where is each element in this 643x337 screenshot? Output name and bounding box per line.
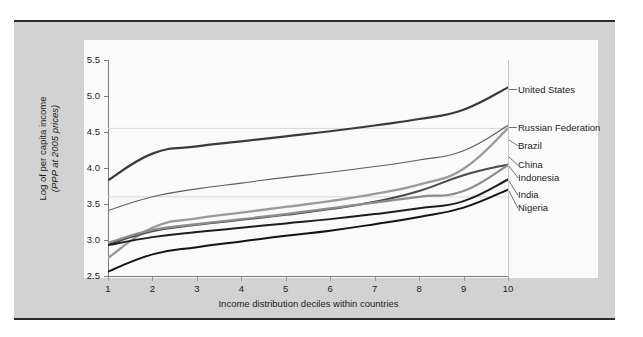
figure-root: 2.53.03.54.04.55.05.5 Log of per capita …	[0, 0, 643, 337]
legend-leader-line	[509, 139, 519, 147]
series-lines-svg	[108, 60, 508, 276]
x-tick-label: 10	[497, 283, 519, 294]
y-tick-mark	[104, 132, 108, 133]
x-tick-label: 9	[453, 283, 475, 294]
x-tick-label: 6	[319, 283, 341, 294]
series-line	[108, 126, 508, 211]
x-tick-label: 4	[230, 283, 252, 294]
y-tick-mark	[104, 276, 108, 277]
y-tick-mark	[104, 96, 108, 97]
y-tick-label: 5.0	[72, 91, 100, 101]
x-tick-mark	[152, 277, 153, 281]
legend-label-china[interactable]: China	[518, 159, 543, 170]
x-tick-mark	[108, 277, 109, 281]
y-tick-label: 5.5	[72, 55, 100, 65]
legend-label-brazil[interactable]: Brazil	[518, 140, 542, 151]
y-axis-tick-labels: 2.53.03.54.04.55.05.5	[70, 22, 100, 322]
legend-label-indonesia[interactable]: Indonesia	[518, 172, 559, 183]
x-tick-mark	[508, 277, 509, 281]
x-tick-mark	[464, 277, 465, 281]
x-tick-mark	[375, 277, 376, 281]
x-tick-mark	[241, 277, 242, 281]
x-tick-label: 5	[275, 283, 297, 294]
x-tick-label: 2	[141, 283, 163, 294]
y-tick-mark	[104, 204, 108, 205]
legend-leader-line	[509, 190, 519, 209]
x-tick-mark	[286, 277, 287, 281]
y-axis-title-main: Log of per capita income	[37, 96, 48, 200]
x-tick-label: 3	[186, 283, 208, 294]
series-line	[108, 87, 508, 180]
y-tick-label: 3.0	[72, 235, 100, 245]
y-axis-title-units: (PPP at 2005 prices)	[48, 64, 60, 234]
x-tick-label: 7	[364, 283, 386, 294]
y-tick-mark	[104, 240, 108, 241]
plot-area	[108, 60, 508, 276]
x-tick-label: 1	[97, 283, 119, 294]
x-tick-mark	[419, 277, 420, 281]
x-axis-title: Income distribution deciles within count…	[108, 298, 509, 309]
y-tick-label: 4.0	[72, 163, 100, 173]
legend-leader-line	[509, 165, 519, 179]
y-tick-mark	[104, 168, 108, 169]
y-tick-label: 3.5	[72, 199, 100, 209]
legend-label-united-states[interactable]: United States	[518, 84, 575, 95]
legend-label-russian-federation[interactable]: Russian Federation	[518, 122, 600, 133]
x-axis-line	[108, 276, 509, 277]
series-line	[108, 190, 508, 272]
legend-leader-line	[509, 89, 517, 90]
legend-label-india[interactable]: India	[518, 189, 539, 200]
y-tick-label: 4.5	[72, 127, 100, 137]
figure-gray-panel: 2.53.03.54.04.55.05.5 Log of per capita …	[14, 20, 615, 320]
x-tick-label: 8	[408, 283, 430, 294]
x-tick-mark	[197, 277, 198, 281]
legend-label-nigeria[interactable]: Nigeria	[518, 202, 548, 213]
legend-leader-line	[509, 127, 517, 128]
y-tick-label: 2.5	[72, 271, 100, 281]
y-axis-title: Log of per capita income (PPP at 2005 pr…	[37, 64, 60, 234]
x-tick-mark	[330, 277, 331, 281]
y-tick-mark	[104, 60, 108, 61]
